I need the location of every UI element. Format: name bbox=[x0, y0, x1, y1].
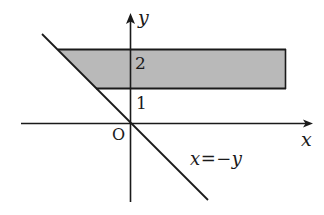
line-equation-label: x=−y bbox=[190, 150, 242, 168]
figure-canvas bbox=[0, 0, 324, 215]
y-tick-label-2: 2 bbox=[135, 55, 146, 72]
x-axis-label: x bbox=[301, 130, 312, 149]
y-axis-label: y bbox=[138, 8, 149, 27]
coordinate-plane-figure: y x O 2 1 x=−y bbox=[0, 0, 324, 215]
origin-label: O bbox=[112, 127, 125, 143]
y-tick-label-1: 1 bbox=[136, 95, 147, 112]
